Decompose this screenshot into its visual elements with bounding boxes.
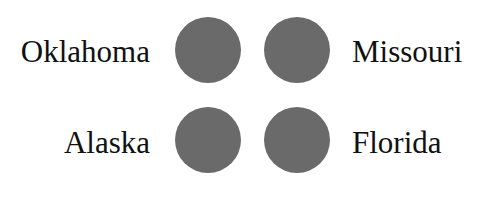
dot-missouri [264,17,330,83]
label-missouri: Missouri [352,36,462,67]
dot-oklahoma [175,17,241,83]
label-oklahoma: Oklahoma [21,36,150,67]
dot-alaska [175,107,241,173]
dot-florida [264,107,330,173]
label-florida: Florida [352,127,442,158]
label-alaska: Alaska [64,127,150,158]
